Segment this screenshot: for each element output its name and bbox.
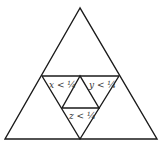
triangle-diagram: x < ¼ y < ¼ z < ¼ (0, 0, 168, 149)
label-y: y < ¼ (88, 80, 116, 90)
label-x: x < ¼ (49, 80, 76, 90)
label-z: z < ¼ (68, 111, 96, 121)
